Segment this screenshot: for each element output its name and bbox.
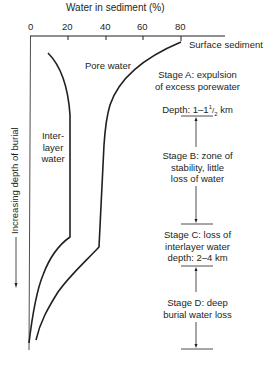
pore-water-label: Pore water xyxy=(85,60,131,72)
stage-d-label: Stage D: deep burial water loss xyxy=(150,297,245,320)
surface-sediment-label: Surface sediment xyxy=(189,39,263,51)
stage-b-line-2: stability, little xyxy=(150,162,245,174)
stage-c-line-1: Stage C: loss of xyxy=(150,229,245,241)
x-tick-label-80: 80 xyxy=(175,21,186,32)
depth-a-label: Depth: 1–11/2 km xyxy=(160,102,235,121)
arrowhead-down-d xyxy=(195,344,198,348)
y-axis-line xyxy=(29,36,31,350)
stage-b-label: Stage B: zone of stability, little loss … xyxy=(150,150,245,185)
interlayer-label-line-3: water xyxy=(38,153,68,165)
interlayer-label-line-2: layer xyxy=(38,142,68,154)
x-tick-label-40: 40 xyxy=(100,21,111,32)
stage-d-line-2: burial water loss xyxy=(150,309,245,321)
x-tick-label-60: 60 xyxy=(137,21,148,32)
x-axis-title: Water in sediment (%) xyxy=(66,2,165,14)
stage-c-line-2: interlayer water xyxy=(150,241,245,253)
stage-a-label: Stage A: expulsion of excess porewater xyxy=(150,69,245,92)
interlayer-water-label: Inter- layer water xyxy=(38,130,68,165)
stage-a-line-1: Stage A: expulsion xyxy=(150,69,245,81)
y-axis-title: Increasing depth of burial xyxy=(9,127,20,234)
x-tick-label-20: 20 xyxy=(62,21,73,32)
stage-c-line-3: depth: 2–4 km xyxy=(150,252,245,264)
stage-d-line-1: Stage D: deep xyxy=(150,297,245,309)
stage-c-label: Stage C: loss of interlayer water depth:… xyxy=(150,229,245,264)
stage-b-line-1: Stage B: zone of xyxy=(150,150,245,162)
stage-b-line-3: loss of water xyxy=(150,173,245,185)
interlayer-label-line-1: Inter- xyxy=(38,130,68,142)
stage-a-line-2: of excess porewater xyxy=(150,81,245,93)
arrowhead-up-d xyxy=(195,267,198,271)
interlayer-water-curve xyxy=(29,53,70,343)
depth-arrowhead xyxy=(15,283,18,288)
arrowhead-down-b xyxy=(195,219,198,223)
x-tick-label-0: 0 xyxy=(28,21,33,32)
